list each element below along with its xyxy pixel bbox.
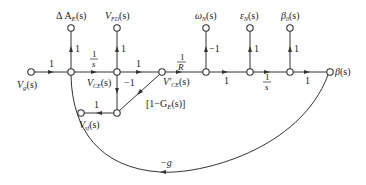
arrow-icon (48, 70, 54, 74)
gain-vce-vfd: 1 (121, 43, 126, 54)
gain-f-beta0: 1 (294, 43, 299, 54)
gain-i-vsf: 1 (94, 99, 99, 110)
node-f (287, 69, 293, 75)
node-d (203, 69, 209, 75)
gain-d-e: 1 (224, 75, 229, 86)
arrow-icon (288, 46, 292, 52)
arrow-icon (204, 46, 208, 52)
arrow-icon (136, 70, 142, 74)
gain-vg-a: 1 (49, 58, 54, 69)
gain-a-delta: 1 (75, 43, 80, 54)
label-vg: Vg(s) (17, 79, 37, 92)
arrow-icon (96, 111, 102, 115)
label-vsf: Vsf(s) (79, 119, 100, 131)
node-vce-prime (159, 69, 165, 75)
label-vfd: VFD(s) (105, 10, 130, 22)
node-vg (28, 69, 34, 75)
label-vce: VCE(s) (87, 77, 111, 89)
gain-feedback-g: −g (160, 157, 172, 168)
gain-e-f-den: s (265, 82, 269, 92)
edge-beta-a-feedback (71, 75, 328, 172)
gain-a-vce-num: 1 (92, 49, 97, 59)
node-vfd (114, 25, 120, 31)
gain-e-f-num: 1 (265, 72, 270, 82)
gain-vce-down: −1 (124, 77, 135, 88)
gain-feedback-ge: [1−GE(s)] (146, 98, 185, 111)
arrow-icon (304, 70, 310, 74)
gain-vceprime-d-num: 1 (180, 52, 185, 62)
arrow-icon (69, 46, 73, 52)
label-eps-n: εN(s) (240, 10, 259, 22)
node-e (247, 69, 253, 75)
arrow-icon (160, 170, 166, 174)
node-a (68, 69, 74, 75)
gain-vceprime-d-den: R (177, 62, 184, 72)
label-vce-prime: V'CE(s) (163, 76, 189, 88)
arrow-icon (91, 70, 97, 74)
node-i (114, 110, 120, 116)
arrow-icon (115, 88, 119, 94)
node-delta-ae (68, 25, 74, 31)
label-omega-n: ωN(s) (195, 10, 217, 22)
gain-vce-vceprime: 1 (136, 58, 141, 69)
label-beta: β(s) (334, 66, 351, 78)
signal-flow-graph: 1 1 s 1 1 R 1 1 s 1 1 1 −1 1 1 −1 1 [1−G… (0, 0, 366, 185)
node-eps-n (247, 25, 253, 31)
gain-f-beta: 1 (305, 75, 310, 86)
arrow-icon (222, 70, 228, 74)
node-beta0 (287, 25, 293, 31)
arrow-icon (115, 46, 119, 52)
node-beta (327, 69, 333, 75)
node-omega-n (203, 25, 209, 31)
arrow-icon (248, 46, 252, 52)
node-vsf (78, 110, 84, 116)
gain-e-eps: 1 (254, 43, 259, 54)
node-vce (114, 69, 120, 75)
gain-a-vce-den: s (92, 59, 96, 69)
label-beta0: β0(s) (280, 10, 300, 22)
label-delta-ae: Δ AE(s) (56, 10, 86, 23)
gain-d-omega: −1 (209, 43, 220, 54)
